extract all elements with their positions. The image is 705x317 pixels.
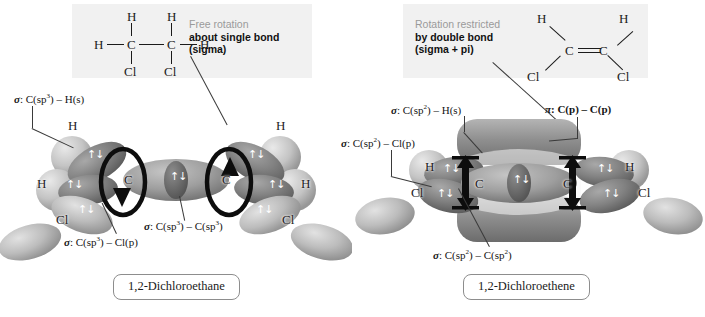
label-sigma-c-sp3-h: σ: C(sp3) – H(s) [14, 92, 84, 105]
rotation-arrowhead-left [113, 188, 131, 207]
leader-pi-bond [577, 117, 578, 139]
orbital-sigma-cc-core [164, 161, 188, 199]
orbital-cl-lobe-left [0, 217, 65, 267]
label-sigma-c-sp3-c-sp3: σ: C(sp3) – C(sp3) [144, 219, 223, 232]
leader-sigma-ch-right-panel [464, 116, 465, 132]
orbital-cl-lobe-left [353, 193, 418, 239]
orbital-cl-lobe-right [287, 217, 352, 267]
label-sigma-c-sp2-c-sp2: σ: C(sp2) – C(sp2) [433, 248, 512, 261]
label-sigma-c-sp3-cl: σ: C(sp3) – Cl(p) [64, 235, 138, 248]
label-pi-c-p-c-p: π: C(p) – C(p) [545, 103, 611, 115]
caption-dichloroethene: 1,2-Dichloroethene [463, 274, 590, 300]
panel-dichloroethene: Rotation restricted by double bond (sigm… [353, 0, 705, 317]
orbital-sigma-cc-core [507, 164, 531, 202]
orbital-cl-lobe-right [640, 193, 705, 239]
leader-sigma-ch [32, 106, 33, 128]
panel-dichloroethane: H H H C C H Cl Cl Free rotation about si… [0, 0, 352, 317]
label-sigma-c-sp2-cl: σ: C(sp2) – Cl(p) [341, 136, 415, 149]
caption-dichloroethane: 1,2-Dichloroethane [113, 274, 240, 300]
leader-sigma-ccl-right-panel [391, 150, 392, 176]
orbital-diagram-dichloroethene [353, 0, 705, 317]
orbital-diagram-dichloroethane [0, 0, 352, 317]
label-sigma-c-sp2-h: σ: C(sp2) – H(s) [391, 103, 461, 116]
